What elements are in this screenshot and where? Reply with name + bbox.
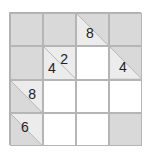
- clue-cell: 2 4: [43, 46, 76, 79]
- clue-sum-across: 2: [60, 52, 68, 66]
- entry-cell[interactable]: [76, 80, 109, 113]
- clue-sum-across: 6: [21, 120, 29, 134]
- clue-sum-across: 8: [28, 87, 36, 101]
- block-cell: [109, 13, 142, 46]
- clue-sum-down: 4: [48, 61, 56, 75]
- entry-cell[interactable]: [76, 46, 109, 79]
- entry-cell[interactable]: [43, 113, 76, 146]
- kakuro-grid: 8 2 4 4 8 6: [9, 12, 141, 145]
- clue-cell: 8: [10, 80, 43, 113]
- clue-sum-down: 4: [119, 60, 127, 74]
- entry-cell[interactable]: [76, 113, 109, 146]
- entry-cell[interactable]: [109, 80, 142, 113]
- clue-sum-across: 8: [86, 26, 94, 40]
- clue-cell: 6: [10, 113, 43, 146]
- block-cell: [43, 13, 76, 46]
- clue-cell: 8: [76, 13, 109, 46]
- diagonal-divider-icon: [11, 81, 42, 112]
- block-cell: [10, 46, 43, 79]
- clue-cell: 4: [109, 46, 142, 79]
- block-cell: [10, 13, 43, 46]
- block-cell: [109, 113, 142, 146]
- entry-cell[interactable]: [43, 80, 76, 113]
